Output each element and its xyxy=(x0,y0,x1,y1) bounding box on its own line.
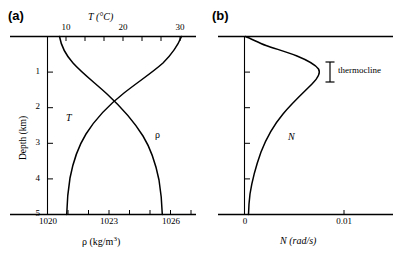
panel-a-top-axis-title: T (°C) xyxy=(88,11,113,22)
panel-b-bottom-tick-0: 0 xyxy=(237,216,253,226)
panel-a-depth-tick-2: 2 xyxy=(30,101,40,111)
panel-a-bottom-tick-1026: 1026 xyxy=(156,216,186,226)
thermocline-bracket xyxy=(326,62,335,82)
panel-a-depth-tick-1: 1 xyxy=(30,66,40,76)
thermocline-annotation-label: thermocline xyxy=(338,65,381,75)
panel-a-depth-ticks xyxy=(48,72,54,214)
panel-a-temperature-curve xyxy=(67,37,182,215)
panel-a-bottom-axis-title-close: ) xyxy=(117,236,120,247)
panel-a-depth-tick-4: 4 xyxy=(30,173,40,183)
panel-a-bottom-tick-1020: 1020 xyxy=(33,216,63,226)
panel-a-density-curve xyxy=(60,37,163,215)
panel-a-top-tick-20: 20 xyxy=(115,22,131,32)
density-curve-label: ρ xyxy=(155,129,160,140)
panel-a xyxy=(10,36,196,215)
panel-a-label: (a) xyxy=(8,8,24,23)
panel-b xyxy=(218,36,393,215)
panel-a-bottom-tick-1023: 1023 xyxy=(94,216,124,226)
panel-a-bottom-axis-title: ρ (kg/m3) xyxy=(82,235,120,247)
panel-a-depth-tick-3: 3 xyxy=(30,137,40,147)
panel-b-buoyancy-curve xyxy=(246,37,320,215)
panel-a-top-tick-30: 30 xyxy=(172,22,188,32)
panel-b-bottom-axis-title: N (rad/s) xyxy=(280,235,316,246)
buoyancy-curve-label: N xyxy=(288,131,295,142)
panel-b-bottom-tick-001: 0.01 xyxy=(331,216,357,226)
temperature-curve-label: T xyxy=(66,112,72,123)
panel-b-depth-ticks xyxy=(245,72,251,179)
panel-a-top-tick-10: 10 xyxy=(58,22,74,32)
panel-a-bottom-axis-title-main: ρ (kg/m xyxy=(82,236,113,247)
panel-b-label: (b) xyxy=(212,8,229,23)
panel-a-y-axis-title: Depth (km) xyxy=(18,116,28,160)
